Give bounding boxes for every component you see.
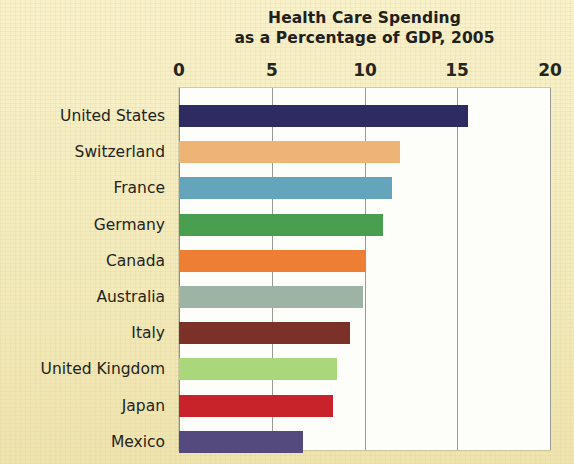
bar-mexico[interactable] [179,431,303,453]
bar-canada[interactable] [179,250,366,272]
plot-area [179,88,550,450]
bar-france[interactable] [179,177,392,199]
x-tick-label-5: 5 [266,60,278,80]
chart-title: Health Care Spending as a Percentage of … [179,8,550,48]
gridline-15 [457,88,458,450]
chart-title-line-1: Health Care Spending [179,8,550,28]
category-label-germany: Germany [0,214,173,236]
bar-united-kingdom[interactable] [179,358,337,380]
x-tick-label-15: 15 [445,60,469,80]
chart-page: Health Care Spending as a Percentage of … [0,0,574,464]
chart-title-line-2: as a Percentage of GDP, 2005 [179,28,550,48]
category-label-japan: Japan [0,395,173,417]
bar-united-states[interactable] [179,105,468,127]
x-tick-label-10: 10 [353,60,377,80]
category-label-united-states: United States [0,105,173,127]
category-label-italy: Italy [0,322,173,344]
x-tick-label-20: 20 [538,60,562,80]
bar-germany[interactable] [179,214,383,236]
category-label-united-kingdom: United Kingdom [0,358,173,380]
x-axis-tick-labels: 05101520 [179,60,550,84]
x-tick-label-0: 0 [173,60,185,80]
bar-switzerland[interactable] [179,141,400,163]
category-label-mexico: Mexico [0,431,173,453]
category-label-france: France [0,177,173,199]
category-label-australia: Australia [0,286,173,308]
category-label-switzerland: Switzerland [0,141,173,163]
bar-italy[interactable] [179,322,350,344]
bar-japan[interactable] [179,395,333,417]
category-label-canada: Canada [0,250,173,272]
category-axis-labels: United StatesSwitzerlandFranceGermanyCan… [0,88,173,450]
gridline-20 [550,88,551,450]
bar-australia[interactable] [179,286,363,308]
